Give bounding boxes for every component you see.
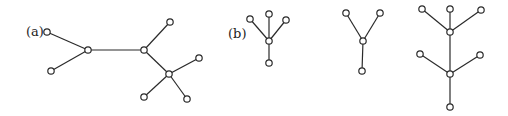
node: [447, 104, 453, 110]
node: [266, 11, 272, 17]
edge: [144, 22, 170, 50]
node: [417, 51, 423, 57]
edge: [422, 9, 450, 32]
edge: [47, 32, 88, 50]
edge: [144, 50, 169, 74]
node: [447, 71, 453, 77]
node: [196, 55, 202, 61]
node: [166, 71, 172, 77]
node: [477, 52, 483, 58]
node: [447, 29, 453, 35]
tree-diagrams: [0, 0, 508, 116]
label-a: (a): [26, 25, 44, 38]
edge: [420, 54, 450, 74]
node: [283, 17, 289, 23]
node: [266, 60, 272, 66]
edge: [51, 50, 88, 71]
node: [419, 6, 425, 12]
node: [247, 16, 253, 22]
edge: [346, 13, 363, 41]
graph-b2: [343, 10, 383, 74]
edge: [250, 19, 269, 41]
label-b: (b): [228, 27, 246, 40]
edge: [169, 74, 187, 99]
node: [360, 38, 366, 44]
node: [167, 19, 173, 25]
edge: [144, 74, 169, 97]
node: [48, 68, 54, 74]
node: [44, 29, 50, 35]
edge: [169, 58, 199, 74]
node: [141, 94, 147, 100]
edge: [362, 41, 363, 71]
edge: [269, 20, 286, 41]
node: [447, 6, 453, 12]
node: [266, 38, 272, 44]
edge: [450, 55, 480, 74]
edge: [450, 10, 481, 32]
graph-b1: [247, 11, 289, 66]
node: [85, 47, 91, 53]
node: [141, 47, 147, 53]
node: [377, 10, 383, 16]
node: [478, 7, 484, 13]
node: [184, 96, 190, 102]
node: [359, 68, 365, 74]
graph-a: [44, 19, 202, 102]
node: [343, 10, 349, 16]
graph-b3: [417, 6, 484, 110]
edge: [363, 13, 380, 41]
